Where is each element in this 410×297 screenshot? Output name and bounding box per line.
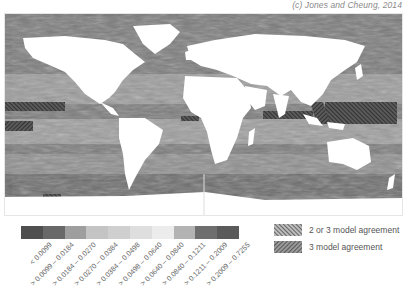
legend-labels: < 0.0099 > 0.0099 – 0.0184 > 0.0184 – 0.… [21,241,251,297]
pattern-legend: 2 or 3 model agreement 3 model agreement [274,223,399,257]
legend-swatch-2 [65,226,87,239]
forward-hatch-swatch-icon [274,241,302,253]
legend-swatch-3 [86,226,108,239]
hatch-region-west-pacific [325,102,397,124]
pattern-legend-label: 2 or 3 model agreement [309,225,399,235]
hatch-region-east-pacific-south [5,121,33,131]
legend-label-9: > 0.2009 – 0.7255 [205,241,252,288]
legend-swatch-1 [43,226,65,239]
pattern-legend-label: 3 model agreement [309,242,382,252]
legend-colorbar [21,226,239,239]
legend-swatch-0 [21,226,43,239]
map-canvas [5,14,402,215]
pattern-legend-row: 3 model agreement [274,240,399,254]
legend-swatch-7 [174,226,196,239]
back-hatch-swatch-icon [274,224,302,236]
world-map [4,13,403,216]
legend-swatch-8 [195,226,217,239]
pattern-legend-row: 2 or 3 model agreement [274,223,399,237]
legend-swatch-9 [217,226,239,239]
legend-swatch-4 [108,226,130,239]
hatch-region-east-pacific-north [5,102,65,111]
legend-swatch-6 [152,226,174,239]
legend-swatch-5 [130,226,152,239]
credit-text: (c) Jones and Cheung, 2014 [292,0,402,10]
